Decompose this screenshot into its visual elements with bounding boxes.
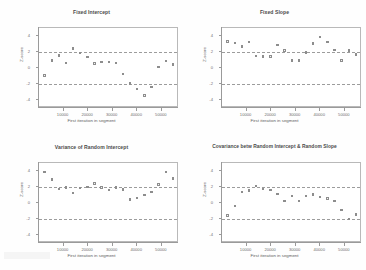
y-tick-label: 0	[211, 65, 213, 70]
x-tick	[63, 243, 64, 246]
data-point	[150, 191, 152, 193]
y-tick	[219, 83, 222, 84]
data-point	[298, 200, 300, 202]
x-tick-label: 30000	[106, 112, 117, 117]
x-tick-label: 20000	[264, 247, 275, 252]
reference-line	[222, 187, 360, 188]
panel-title: Fixed Intercept	[0, 9, 183, 15]
data-point	[58, 188, 60, 190]
y-tick-label: -2	[26, 81, 30, 86]
data-point	[312, 193, 314, 195]
data-point	[122, 188, 124, 190]
y-tick-label: -2	[209, 216, 213, 221]
y-tick	[219, 170, 222, 171]
data-point	[319, 36, 321, 38]
data-point	[100, 61, 102, 63]
y-axis	[38, 27, 39, 107]
y-tick-label: -2	[26, 216, 30, 221]
x-tick-label: 50000	[338, 247, 349, 252]
data-point	[305, 51, 307, 53]
panel-title: Variance of Random Intercept	[0, 144, 183, 150]
data-point	[262, 188, 264, 190]
x-tick-label: 10000	[240, 247, 251, 252]
x-tick-label: 50000	[155, 247, 166, 252]
y-tick	[36, 67, 39, 68]
data-point	[143, 94, 145, 96]
data-point	[129, 82, 131, 84]
y-tick	[219, 51, 222, 52]
data-point	[58, 54, 60, 56]
data-point	[115, 62, 117, 64]
x-axis: 1000020000300004000050000	[38, 242, 178, 243]
x-tick	[344, 108, 345, 111]
data-point	[298, 59, 300, 61]
y-tick	[219, 218, 222, 219]
data-point	[157, 183, 159, 185]
x-tick-label: 20000	[81, 247, 92, 252]
data-point	[93, 182, 95, 184]
data-point	[241, 45, 243, 47]
y-tick-label: 2	[211, 184, 213, 189]
y-tick-label: -4	[26, 232, 30, 237]
x-tick-label: 10000	[240, 112, 251, 117]
y-tick	[36, 202, 39, 203]
data-point	[291, 195, 293, 197]
y-tick-label: 4	[211, 168, 213, 173]
data-point	[136, 197, 138, 199]
data-point	[305, 195, 307, 197]
x-tick	[344, 243, 345, 246]
y-tick-labels: -4-2024	[0, 162, 34, 242]
data-point	[262, 55, 264, 57]
y-axis-title: Z-score	[19, 182, 24, 197]
y-tick	[36, 186, 39, 187]
y-tick-label: 0	[28, 200, 30, 205]
data-point	[150, 86, 152, 88]
y-tick-label: 0	[211, 200, 213, 205]
data-point	[108, 189, 110, 191]
y-tick	[36, 234, 39, 235]
y-tick-label: 4	[211, 33, 213, 38]
data-point	[234, 42, 236, 44]
data-point	[100, 186, 102, 188]
data-point	[326, 197, 328, 199]
data-point	[136, 88, 138, 90]
x-tick-label: 20000	[264, 112, 275, 117]
data-point	[226, 214, 228, 216]
reference-line	[222, 219, 360, 220]
data-point	[333, 49, 335, 51]
plot-inner	[39, 28, 177, 106]
reference-line	[222, 84, 360, 85]
reference-line	[39, 52, 177, 53]
data-point	[269, 55, 271, 57]
data-point	[51, 59, 53, 61]
x-tick	[270, 108, 271, 111]
y-tick	[219, 234, 222, 235]
data-point	[348, 218, 350, 220]
reference-line	[39, 84, 177, 85]
data-point	[86, 186, 88, 188]
x-tick-label: 10000	[57, 112, 68, 117]
y-tick-labels: -4-2024	[183, 27, 217, 107]
data-point	[355, 213, 357, 215]
data-point	[51, 178, 53, 180]
y-axis-title: Z-score	[19, 47, 24, 62]
x-tick	[112, 243, 113, 246]
data-point	[333, 200, 335, 202]
y-tick-labels: -4-2024	[0, 27, 34, 107]
data-point	[65, 186, 67, 188]
y-tick-label: 2	[28, 184, 30, 189]
data-point	[255, 185, 257, 187]
data-point	[255, 55, 257, 57]
plot-inner	[39, 163, 177, 241]
x-tick-label: 40000	[131, 112, 142, 117]
data-point	[93, 62, 95, 64]
data-point	[276, 44, 278, 46]
y-tick-label: -4	[209, 97, 213, 102]
x-axis: 1000020000300004000050000	[38, 107, 178, 108]
data-point	[340, 209, 342, 211]
x-tick	[319, 243, 320, 246]
panel-variance-random-intercept: Variance of Random Intercept -4-2024 100…	[0, 135, 183, 270]
x-axis-title: First iteration in segment	[183, 253, 366, 258]
x-tick	[87, 243, 88, 246]
x-axis-title: First iteration in segment	[183, 118, 366, 123]
